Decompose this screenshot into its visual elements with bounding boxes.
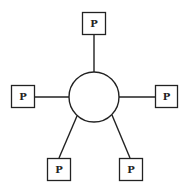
node-left: P <box>12 86 35 108</box>
link-bottom-left <box>59 116 77 158</box>
node-top: P <box>83 13 106 35</box>
node-bottom-left: P <box>48 159 71 181</box>
node-label: P <box>163 91 171 102</box>
link-bottom-right <box>112 115 130 158</box>
node-label: P <box>90 18 98 29</box>
node-label: P <box>19 91 27 102</box>
star-diagram: P P P P P <box>0 0 188 190</box>
node-label: P <box>127 164 135 175</box>
node-label: P <box>55 164 63 175</box>
node-right: P <box>156 86 178 108</box>
hub-circle <box>69 72 119 122</box>
node-bottom-right: P <box>120 159 143 181</box>
